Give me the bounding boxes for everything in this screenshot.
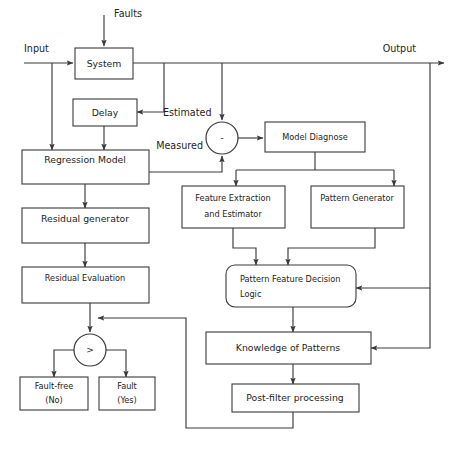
node-model-diagnose-label: Model Diagnose [282,132,347,142]
node-fault-sublabel: (Yes) [117,395,137,405]
node-knowledge-of-patterns[interactable]: Knowledge of Patterns [206,332,371,364]
node-residual-evaluation[interactable]: Residual Evaluation [22,267,149,303]
node-decision-logic-label-line2: Logic [240,289,261,299]
node-system[interactable]: System [75,48,133,79]
node-decision-logic-label-line1: Pattern Feature Decision [240,274,340,284]
node-fault-label: Fault [117,381,137,391]
block-diagram-canvas: System Delay Regression Model Residual g… [0,0,465,449]
node-model-diagnose[interactable]: Model Diagnose [265,122,365,152]
node-summing-junction[interactable]: - [206,122,238,154]
node-fault[interactable]: Fault (Yes) [99,377,155,410]
edge-comparator-to-fault-free [54,350,74,377]
edge-feature-extraction-to-decision-logic [233,228,256,265]
node-feature-extraction-label-line1: Feature Extraction [195,193,270,203]
edge-regression-model-to-summing-junction-measured [149,156,222,172]
node-comparator[interactable]: > [74,334,106,366]
node-knowledge-of-patterns-label: Knowledge of Patterns [236,342,340,353]
node-delay-label: Delay [92,107,119,118]
edge-system-to-delay-estimated [137,63,164,112]
figure-caption-strip [0,439,465,449]
node-residual-evaluation-label: Residual Evaluation [45,273,125,283]
node-regression-model[interactable]: Regression Model [22,150,149,184]
node-fault-free-label: Fault-free [35,381,74,391]
node-feature-extraction[interactable]: Feature Extraction and Estimator [182,186,285,228]
node-post-filter-processing-label: Post-filter processing [246,392,344,403]
node-pattern-generator[interactable]: Pattern Generator [311,186,404,228]
node-post-filter-processing[interactable]: Post-filter processing [232,384,359,412]
edge-output-to-knowledge-of-patterns [371,288,430,348]
edge-output-to-decision-logic [356,63,430,288]
edge-comparator-to-fault [106,350,126,377]
edge-label-measured: Measured [156,140,203,151]
edge-label-input: Input [24,43,49,54]
node-pattern-generator-label: Pattern Generator [320,193,394,203]
node-feature-extraction-label-line2: and Estimator [204,209,262,219]
node-regression-model-label: Regression Model [44,154,126,165]
flowchart-svg: System Delay Regression Model Residual g… [0,0,465,449]
node-residual-generator[interactable]: Residual generator [22,208,149,243]
node-delay[interactable]: Delay [73,99,137,126]
node-system-label: System [87,58,122,69]
edge-pattern-generator-to-decision-logic [288,228,375,265]
summing-junction-operator-label: - [220,133,223,143]
comparator-operator-label: > [86,345,94,355]
node-residual-generator-label: Residual generator [41,213,129,224]
node-fault-free-sublabel: (No) [45,395,63,405]
edge-label-estimated: Estimated [163,107,211,118]
edge-label-faults: Faults [114,8,142,19]
edge-label-output: Output [383,43,417,54]
node-fault-free[interactable]: Fault-free (No) [20,377,88,410]
node-pattern-feature-decision-logic[interactable]: Pattern Feature Decision Logic [226,265,356,307]
